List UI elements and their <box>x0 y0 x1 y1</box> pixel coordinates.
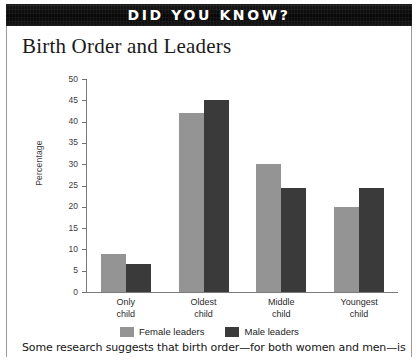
bar-male <box>126 264 151 292</box>
chart-legend: Female leadersMale leaders <box>120 326 311 337</box>
y-tick-label: 10 <box>56 245 78 254</box>
y-tick-mark <box>82 186 86 187</box>
bar-female <box>179 113 204 292</box>
y-tick-label: 45 <box>56 96 78 105</box>
bar-group <box>320 79 398 292</box>
x-tick-label-line: Only <box>87 297 165 309</box>
y-tick-mark <box>82 79 86 80</box>
legend-swatch-male <box>225 327 239 337</box>
bar-female <box>334 207 359 292</box>
y-tick-mark <box>82 228 86 229</box>
x-tick-label-line: child <box>87 309 165 321</box>
bar-group <box>165 79 243 292</box>
y-tick-mark <box>82 164 86 165</box>
y-tick-mark <box>82 143 86 144</box>
y-tick-label: 15 <box>56 224 78 233</box>
x-axis-line <box>86 292 398 293</box>
x-tick-label-line: child <box>165 309 243 321</box>
legend-item: Male leaders <box>225 326 298 337</box>
y-tick-mark <box>82 292 86 293</box>
x-tick-label: Onlychild <box>87 297 165 320</box>
bar-male <box>359 188 384 292</box>
y-tick-label: 40 <box>56 117 78 126</box>
bar-female <box>101 254 126 292</box>
x-tick-label: Oldestchild <box>165 297 243 320</box>
bar-female <box>256 164 281 292</box>
y-tick-label: 35 <box>56 138 78 147</box>
y-tick-label: 5 <box>56 266 78 275</box>
bar-male <box>204 100 229 292</box>
x-tick-label: Middlechild <box>243 297 321 320</box>
bar-chart: Percentage 05101520253035404550 Onlychil… <box>0 0 418 361</box>
x-tick-label-line: Oldest <box>165 297 243 309</box>
legend-label: Male leaders <box>244 326 298 337</box>
x-tick-label-line: Middle <box>243 297 321 309</box>
legend-swatch-female <box>120 327 134 337</box>
y-tick-label: 0 <box>56 288 78 297</box>
y-tick-mark <box>82 249 86 250</box>
figure-caption: Some research suggests that birth order—… <box>22 341 402 354</box>
bar-group <box>87 79 165 292</box>
x-tick-label: Youngestchild <box>320 297 398 320</box>
legend-item: Female leaders <box>120 326 204 337</box>
y-tick-label: 30 <box>56 160 78 169</box>
y-tick-label: 20 <box>56 202 78 211</box>
y-axis-label: Percentage <box>34 118 44 208</box>
x-tick-label-line: Youngest <box>320 297 398 309</box>
y-tick-label: 50 <box>56 75 78 84</box>
bars-layer <box>87 79 398 292</box>
x-tick-label-line: child <box>243 309 321 321</box>
y-tick-mark <box>82 271 86 272</box>
y-tick-mark <box>82 122 86 123</box>
y-tick-mark <box>82 100 86 101</box>
did-you-know-figure: DID YOU KNOW? Birth Order and Leaders Pe… <box>0 0 418 361</box>
bar-group <box>243 79 321 292</box>
x-tick-label-line: child <box>320 309 398 321</box>
bar-male <box>281 188 306 292</box>
y-tick-label: 25 <box>56 181 78 190</box>
legend-label: Female leaders <box>139 326 204 337</box>
y-tick-mark <box>82 207 86 208</box>
